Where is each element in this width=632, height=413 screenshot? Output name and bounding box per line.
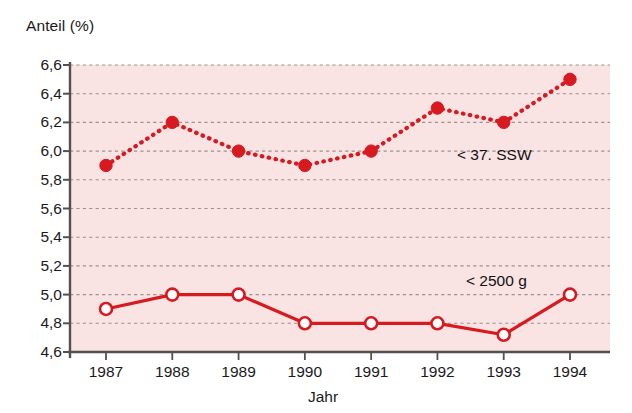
y-axis-tick-labels: 6,66,46,26,05,85,65,45,25,04,84,6 bbox=[10, 0, 62, 413]
data-point bbox=[100, 303, 112, 315]
series-label-preterm: < 37. SSW bbox=[457, 146, 532, 164]
data-point bbox=[166, 289, 178, 301]
x-tick-label: 1992 bbox=[407, 363, 467, 381]
series-label-lowbirthweight: < 2500 g bbox=[466, 272, 527, 290]
data-point bbox=[166, 116, 178, 128]
data-point bbox=[233, 289, 245, 301]
x-tick-label: 1994 bbox=[540, 363, 600, 381]
data-point bbox=[564, 289, 576, 301]
data-point bbox=[431, 102, 443, 114]
y-tick-label: 5,8 bbox=[14, 172, 62, 188]
y-tick-label: 6,4 bbox=[14, 86, 62, 102]
y-tick-label: 5,0 bbox=[14, 287, 62, 303]
x-tick-label: 1987 bbox=[76, 363, 136, 381]
chart-container: Anteil (%) 6,66,46,26,05,85,65,45,25,04,… bbox=[0, 0, 632, 413]
x-tick-label: 1991 bbox=[341, 363, 401, 381]
y-tick-label: 5,6 bbox=[14, 201, 62, 217]
y-tick-label: 4,8 bbox=[14, 315, 62, 331]
data-point bbox=[100, 159, 112, 171]
data-point bbox=[564, 73, 576, 85]
data-point bbox=[365, 145, 377, 157]
data-point bbox=[365, 317, 377, 329]
chart-plot-area bbox=[0, 0, 632, 413]
data-point bbox=[431, 317, 443, 329]
x-axis-title: Jahr bbox=[308, 388, 338, 406]
y-tick-label: 5,2 bbox=[14, 258, 62, 274]
x-axis-title-wrap: Jahr bbox=[0, 388, 632, 406]
x-tick-label: 1993 bbox=[474, 363, 534, 381]
x-tick-label: 1988 bbox=[142, 363, 202, 381]
data-point bbox=[498, 329, 510, 341]
y-tick-label: 6,0 bbox=[14, 143, 62, 159]
y-tick-label: 5,4 bbox=[14, 229, 62, 245]
y-tick-label: 6,6 bbox=[14, 57, 62, 73]
x-tick-label: 1989 bbox=[209, 363, 269, 381]
data-point bbox=[232, 145, 244, 157]
y-tick-label: 4,6 bbox=[14, 344, 62, 360]
data-point bbox=[299, 159, 311, 171]
data-point bbox=[498, 116, 510, 128]
y-tick-label: 6,2 bbox=[14, 114, 62, 130]
data-point bbox=[299, 317, 311, 329]
x-tick-label: 1990 bbox=[275, 363, 335, 381]
